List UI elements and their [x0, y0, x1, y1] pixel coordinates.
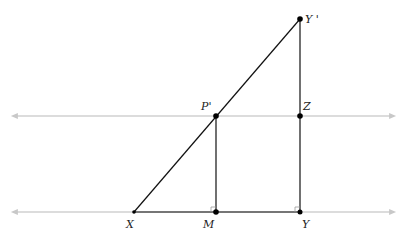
label-pprime: P'	[201, 101, 211, 112]
label-yprime: Y '	[305, 14, 319, 25]
label-x: X	[126, 219, 134, 230]
point-x	[132, 210, 136, 214]
point-pprime	[213, 113, 219, 119]
point-y	[298, 210, 303, 215]
label-m: M	[203, 219, 214, 230]
point-z	[297, 113, 303, 119]
point-yprime	[297, 16, 303, 22]
geometry-diagram	[0, 0, 405, 241]
label-y: Y	[302, 219, 309, 230]
point-m	[213, 209, 219, 215]
label-z: Z	[303, 101, 311, 112]
